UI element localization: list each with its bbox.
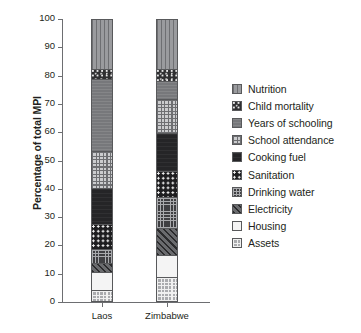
legend-item-drinking-water[interactable]: Drinking water: [232, 183, 334, 200]
bar-segment-sanitation[interactable]: [157, 172, 177, 197]
legend-item-assets[interactable]: Assets: [232, 235, 334, 252]
legend-swatch-nutrition-icon: [232, 84, 242, 94]
plot-area: 0102030405060708090100 LaosZimbabwe: [62, 19, 210, 303]
bar-laos[interactable]: [91, 19, 113, 302]
legend-label: Sanitation: [248, 169, 294, 181]
x-axis-tick: [102, 303, 103, 307]
chart-legend: NutritionChild mortalityYears of schooli…: [232, 80, 334, 252]
y-axis-tick: 40: [58, 189, 62, 190]
bar-segment-sanitation[interactable]: [92, 225, 112, 250]
legend-swatch-cooking-fuel-icon: [232, 152, 242, 162]
x-axis-line: [62, 302, 210, 303]
legend-label: Cooking fuel: [248, 151, 306, 163]
y-axis-tick: 70: [58, 104, 62, 105]
y-axis-tick-label: 50: [29, 154, 55, 165]
bar-segment-cooking-fuel[interactable]: [92, 189, 112, 224]
legend-item-school-attendance[interactable]: School attendance: [232, 132, 334, 149]
legend-item-nutrition[interactable]: Nutrition: [232, 80, 334, 97]
y-axis-tick-label: 20: [29, 238, 55, 249]
legend-item-electricity[interactable]: Electricity: [232, 200, 334, 217]
bar-segment-cooking-fuel[interactable]: [157, 134, 177, 172]
bar-segment-housing[interactable]: [92, 273, 112, 291]
y-axis-tick-label: 10: [29, 267, 55, 278]
y-axis-tick: 20: [58, 245, 62, 246]
bar-segment-electricity[interactable]: [157, 229, 177, 256]
bar-segment-housing[interactable]: [157, 256, 177, 279]
legend-swatch-housing-icon: [232, 221, 242, 231]
y-axis-tick: 60: [58, 132, 62, 133]
y-axis-tick-label: 70: [29, 97, 55, 108]
bar-segment-school-attendance[interactable]: [92, 152, 112, 189]
legend-swatch-electricity-icon: [232, 204, 242, 214]
y-axis-tick: 90: [58, 47, 62, 48]
y-axis-line: [62, 19, 63, 303]
bar-segment-drinking-water[interactable]: [157, 198, 177, 229]
bar-segment-years-schooling[interactable]: [157, 82, 177, 100]
y-axis-tick-label: 100: [29, 12, 55, 23]
bar-segment-electricity[interactable]: [92, 264, 112, 272]
legend-label: Years of schooling: [248, 117, 333, 129]
legend-label: Drinking water: [248, 186, 314, 198]
legend-label: Electricity: [248, 203, 292, 215]
legend-item-cooking-fuel[interactable]: Cooking fuel: [232, 149, 334, 166]
y-axis-tick-label: 0: [29, 295, 55, 306]
stacked-bar-chart: Percentage of total MPI 0102030405060708…: [0, 0, 361, 333]
bar-segment-school-attendance[interactable]: [157, 100, 177, 134]
legend-swatch-sanitation-icon: [232, 170, 242, 180]
legend-swatch-assets-icon: [232, 238, 242, 248]
legend-swatch-drinking-water-icon: [232, 187, 242, 197]
bar-segment-nutrition[interactable]: [157, 19, 177, 70]
bar-segment-child-mortality[interactable]: [92, 70, 112, 80]
y-axis-tick-label: 40: [29, 182, 55, 193]
legend-item-child-mortality[interactable]: Child mortality: [232, 97, 334, 114]
y-axis-tick: 30: [58, 217, 62, 218]
y-axis-tick-label: 90: [29, 40, 55, 51]
legend-label: Assets: [248, 237, 279, 249]
legend-label: Nutrition: [248, 83, 287, 95]
legend-item-years-schooling[interactable]: Years of schooling: [232, 114, 334, 131]
legend-swatch-years-schooling-icon: [232, 118, 242, 128]
x-axis-label-zimbabwe: Zimbabwe: [145, 310, 189, 321]
y-axis-tick-label: 80: [29, 69, 55, 80]
y-axis-tick-label: 30: [29, 210, 55, 221]
bar-segment-years-schooling[interactable]: [92, 80, 112, 152]
y-axis-tick: 50: [58, 161, 62, 162]
legend-label: School attendance: [248, 134, 334, 146]
y-axis-tick: 0: [58, 302, 62, 303]
legend-swatch-school-attendance-icon: [232, 135, 242, 145]
legend-label: Child mortality: [248, 100, 314, 112]
bar-segment-assets[interactable]: [92, 291, 112, 301]
bar-segment-assets[interactable]: [157, 278, 177, 301]
y-axis-tick: 80: [58, 76, 62, 77]
x-axis-label-laos: Laos: [92, 310, 113, 321]
y-axis-tick-label: 60: [29, 125, 55, 136]
bar-segment-child-mortality[interactable]: [157, 70, 177, 81]
x-axis-tick: [167, 303, 168, 307]
bar-zimbabwe[interactable]: [156, 19, 178, 302]
y-axis-tick: 10: [58, 274, 62, 275]
bar-segment-nutrition[interactable]: [92, 19, 112, 70]
y-axis-tick: 100: [58, 19, 62, 20]
legend-label: Housing: [248, 220, 286, 232]
bar-segment-drinking-water[interactable]: [92, 250, 112, 264]
legend-item-sanitation[interactable]: Sanitation: [232, 166, 334, 183]
legend-item-housing[interactable]: Housing: [232, 218, 334, 235]
legend-swatch-child-mortality-icon: [232, 101, 242, 111]
